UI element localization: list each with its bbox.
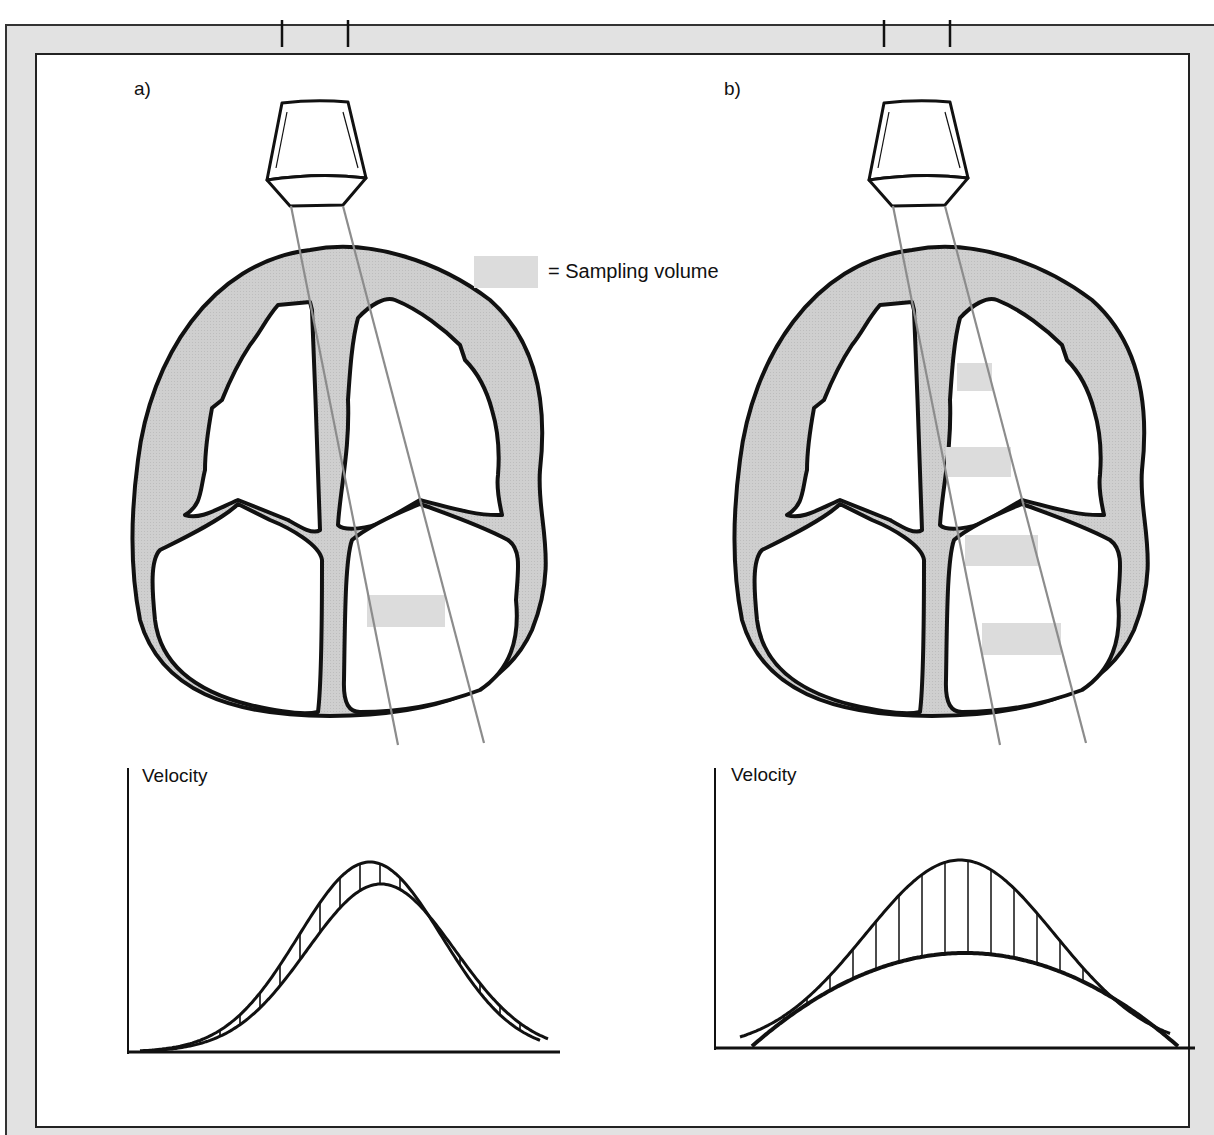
panel-label-a: a) (134, 78, 151, 100)
sampling-volume (367, 595, 445, 627)
sampling-volume (965, 535, 1038, 566)
velocity-axis-label-a: Velocity (142, 765, 207, 787)
legend-label: = Sampling volume (548, 260, 719, 283)
probe-tip (267, 175, 366, 206)
spectrum-lower-envelope (148, 884, 548, 1051)
probe-tip (869, 175, 968, 206)
spectrum-lower-envelope (752, 953, 1178, 1046)
velocity-axis-label-b: Velocity (731, 764, 796, 786)
spectrum-upper-envelope (740, 860, 1170, 1037)
heart-diagram-b (734, 20, 1148, 745)
heart-diagram-a (132, 20, 546, 745)
velocity-plot-a (128, 768, 560, 1054)
sampling-volume (982, 623, 1061, 655)
sampling-volume (946, 447, 1011, 477)
panel-label-b: b) (724, 78, 741, 100)
legend-swatch (474, 256, 538, 288)
velocity-plot-b (715, 768, 1195, 1050)
